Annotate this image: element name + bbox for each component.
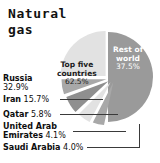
callout-uae-name-line-1: United Arab [3,122,57,131]
callout-qatar: Qatar 5.8% [3,110,51,119]
chart-title-line-2: gas [8,22,33,37]
pie-label-rest-value: 37.5% [116,62,140,71]
callout-uae-value: 4.1% [45,131,65,140]
callout-saudi-value: 4.0% [63,143,83,152]
leader-line-saudi [87,124,139,147]
callout-qatar-value: 5.8% [31,110,51,119]
pie-label-top-five-countries: Top five countries 62.5% [57,61,97,87]
callout-uae-name-line-2: Emirates [3,131,43,140]
callout-iran: Iran 15.7% [3,95,49,104]
callout-saudi-name: Saudi Arabia [3,143,61,152]
callout-iran-value: 15.7% [24,95,49,104]
chart-root: Naturalgas Rest of world [0,0,160,163]
callout-russia: Russia 32.9% [3,74,33,93]
callout-united-arab-emirates: United Arab Emirates 4.1% [3,122,66,141]
chart-title: Naturalgas [8,6,67,38]
chart-title-line-1: Natural [8,6,67,21]
callout-saudi-arabia: Saudi Arabia 4.0% [3,143,83,152]
pie-label-rest-of-world: Rest of world 37.5% [113,46,143,72]
callout-russia-name: Russia [3,74,33,83]
callout-iran-name: Iran [3,95,21,104]
callout-russia-value: 32.9% [3,83,28,92]
callout-qatar-name: Qatar [3,110,28,119]
pie-label-top5-value: 62.5% [65,77,89,86]
